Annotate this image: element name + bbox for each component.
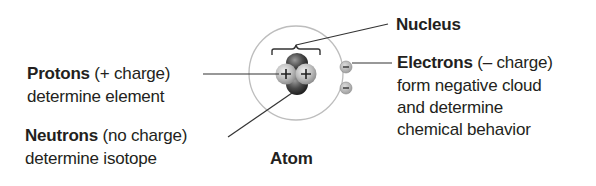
nucleus-term: Nucleus <box>396 15 461 34</box>
electrons-role-line-3: chemical behavior <box>397 119 531 141</box>
atom-caption: Atom <box>270 148 313 170</box>
leader-nucleus <box>296 24 388 45</box>
electrons-role-line-1: form negative cloud <box>397 75 542 97</box>
protons-label: Protons (+ charge) <box>27 63 170 85</box>
electrons-charge: (– charge) <box>477 53 552 72</box>
neutrons-charge: (no charge) <box>103 126 188 145</box>
electrons <box>340 61 352 94</box>
nucleus-label: Nucleus <box>396 14 461 36</box>
leader-neutrons <box>228 93 292 137</box>
protons-term: Protons <box>27 64 90 83</box>
nucleus <box>276 53 317 95</box>
protons-role: determine element <box>27 86 164 108</box>
neutrons-role: determine isotope <box>25 148 157 170</box>
protons-charge: (+ charge) <box>94 64 170 83</box>
electrons-role-line-2: and determine <box>397 97 503 119</box>
neutrons-term: Neutrons <box>25 126 98 145</box>
electrons-label: Electrons (– charge) <box>397 52 553 74</box>
neutrons-label: Neutrons (no charge) <box>25 125 187 147</box>
electrons-term: Electrons <box>397 53 473 72</box>
